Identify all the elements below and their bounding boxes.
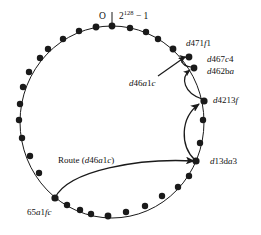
ring-node — [16, 117, 22, 123]
ring-node-d467c4 — [186, 54, 193, 61]
ring-node — [26, 69, 32, 75]
ring-diagram-canvas — [0, 0, 261, 235]
ring-node — [20, 84, 26, 90]
ring-node — [127, 25, 133, 31]
max-id-exponent: 128 — [124, 9, 134, 16]
origin-label: O — [99, 12, 106, 22]
ring-node — [27, 153, 33, 159]
ring-node — [37, 55, 43, 61]
ring-node — [17, 101, 23, 107]
label-d462ba: d462ba — [207, 67, 234, 76]
ring-node — [186, 173, 192, 179]
ring-node — [142, 203, 148, 209]
ring-node — [200, 117, 206, 123]
ring-node-group — [16, 23, 208, 220]
label-d13da3: d13da3 — [210, 157, 237, 166]
ring-node — [197, 140, 203, 146]
ring-node — [155, 36, 161, 42]
label-d467c4: d467c4 — [207, 55, 234, 64]
label-d46a1c-key: d46a1c — [129, 79, 156, 88]
ring-node — [88, 211, 94, 217]
max-id-label: 2128 − 1 — [119, 12, 148, 22]
key-leader-line — [158, 57, 185, 76]
route-hop-65a1fc-to-d13da3 — [55, 161, 194, 198]
ring-node — [105, 213, 112, 220]
dht-ring-routing-figure: O 2128 − 1 d471f1 d467c4 d462ba d46a1c d… — [0, 0, 261, 235]
label-d4213f: d4213f — [213, 96, 238, 105]
ring-node — [77, 207, 83, 213]
max-id-tail: − 1 — [134, 11, 149, 21]
route-hop-d4213f-to-d462ba — [185, 70, 202, 99]
ring-node — [45, 46, 51, 52]
route-hop-d13da3-to-d4213f — [184, 104, 199, 160]
label-route: Route (d46a1c) — [58, 156, 114, 165]
ring-node — [175, 184, 181, 190]
label-d471f1: d471f1 — [186, 39, 211, 48]
ring-node-d471f1 — [170, 46, 177, 53]
ring-node — [159, 193, 165, 199]
ring-node — [64, 202, 70, 208]
ring-node — [19, 135, 25, 141]
ring-node-d4213f — [200, 97, 207, 104]
ring-node-65a1fc — [51, 194, 58, 201]
ring-node — [143, 29, 149, 35]
ring-node-d13da3 — [192, 157, 199, 164]
ring-node — [123, 209, 129, 215]
ring-node — [36, 170, 42, 176]
label-65a1fc: 65a1fc — [27, 208, 52, 217]
ring-node — [60, 36, 66, 42]
ring-node — [76, 28, 82, 34]
ring-node-d462ba — [191, 65, 198, 72]
ring-node — [93, 24, 100, 31]
ring-node — [109, 23, 116, 30]
